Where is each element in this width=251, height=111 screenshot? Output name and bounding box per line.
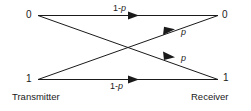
node-receiver-1: 1 (223, 73, 229, 83)
node-transmitter-0: 0 (26, 10, 32, 20)
edge-label-tx1-rx1: 1-p (110, 82, 123, 91)
arrowhead-tx0-rx0 (128, 12, 139, 20)
arrowhead-tx1-rx1 (128, 76, 139, 84)
node-transmitter-1: 1 (26, 74, 32, 84)
caption-receiver: Receiver (191, 92, 229, 102)
edge-label-variable: p (181, 53, 186, 63)
edge-label-prefix: 1- (113, 3, 121, 13)
edge-label-variable: p (118, 81, 123, 91)
bsc-diagram-canvas: 0 1 0 1 1-p 1-p p p Transmitter Receiver (0, 0, 251, 111)
edge-label-prefix: 1- (110, 81, 118, 91)
edge-label-tx0-rx1: p (181, 54, 186, 63)
caption-transmitter: Transmitter (12, 92, 60, 102)
arrowhead-tx0-rx1 (163, 52, 175, 60)
arrowhead-tx1-rx0 (163, 27, 175, 35)
node-receiver-0: 0 (222, 10, 228, 20)
edge-label-tx1-rx0: p (181, 28, 186, 37)
edge-label-tx0-rx0: 1-p (113, 4, 126, 13)
edge-label-variable: p (121, 3, 126, 13)
edge-label-variable: p (181, 27, 186, 37)
